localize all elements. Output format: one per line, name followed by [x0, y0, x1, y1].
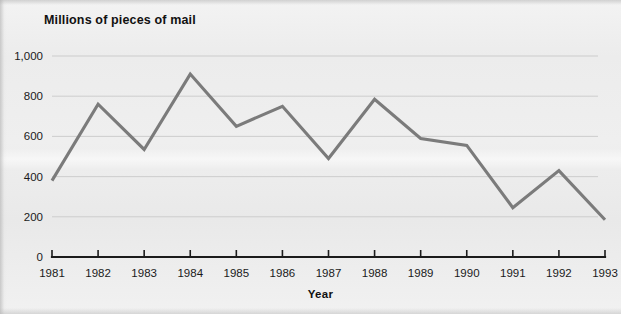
x-tick-label: 1992	[546, 267, 572, 279]
y-tick-label: 0	[37, 251, 43, 263]
y-tick-label: 800	[24, 90, 43, 102]
x-tick-label: 1983	[131, 267, 157, 279]
x-tick-label: 1985	[224, 267, 250, 279]
x-tick-label: 1993	[592, 267, 618, 279]
chart-figure: Millions of pieces of mail 0200400600800…	[0, 0, 621, 314]
x-axis-title: Year	[0, 288, 621, 300]
x-tick-label: 1984	[177, 267, 203, 279]
x-tick-label: 1988	[362, 267, 388, 279]
x-tick-label: 1989	[408, 267, 434, 279]
x-axis-tick-labels: 1981198219831984198519861987198819891990…	[39, 267, 618, 279]
y-tick-label: 400	[24, 171, 43, 183]
y-tick-label: 600	[24, 130, 43, 142]
gridlines-group	[52, 56, 598, 217]
x-tick-label: 1982	[85, 267, 111, 279]
y-tick-label: 1,000	[14, 50, 43, 62]
x-axis-title-text: Year	[308, 288, 334, 300]
x-tick-label: 1990	[454, 267, 480, 279]
x-tick-label: 1987	[316, 267, 342, 279]
x-tick-label: 1986	[270, 267, 296, 279]
chart-plot-area: 02004006008001,000 198119821983198419851…	[0, 0, 621, 314]
y-axis-tick-labels: 02004006008001,000	[14, 50, 43, 263]
y-tick-label: 200	[24, 211, 43, 223]
x-tick-label: 1981	[39, 267, 65, 279]
x-tick-label: 1991	[500, 267, 526, 279]
